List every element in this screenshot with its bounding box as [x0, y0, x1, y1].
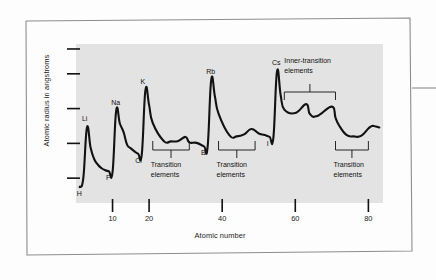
element-label: Cs [272, 59, 281, 66]
annotation-caption: Transitionelements [217, 160, 247, 179]
annotation-caption-line: elements [151, 170, 181, 180]
element-label: Li [82, 115, 87, 122]
element-label: Na [111, 99, 120, 106]
element-label: K [140, 78, 145, 85]
annotation-caption-line: elements [284, 66, 331, 76]
x-axis-tick-label: 40 [210, 214, 234, 223]
annotation-caption-line: Transition [217, 160, 247, 170]
element-label: Br [201, 149, 208, 156]
x-axis-tick-label: 10 [101, 214, 125, 223]
annotation-caption-line: Transition [151, 160, 181, 170]
chart-figure: Atomic radius in angstroms Atomic number… [0, 0, 436, 280]
element-label: I [267, 140, 269, 147]
figure-root: Atomic radius in angstroms Atomic number… [0, 0, 436, 280]
annotation-caption: Transitionelements [333, 160, 363, 179]
annotation-caption-line: Transition [333, 160, 363, 170]
element-label: F [106, 174, 110, 181]
x-axis-tick-label: 60 [283, 214, 307, 223]
annotation-caption: Inner-transitionelements [284, 56, 331, 75]
element-label: Cl [135, 157, 142, 164]
x-axis-tick-label: 80 [356, 214, 380, 223]
annotation-caption-line: elements [217, 170, 247, 180]
y-axis-title: Atomic radius in angstroms [42, 31, 51, 171]
element-label: Rb [206, 68, 215, 75]
element-label: H [77, 190, 82, 197]
annotation-caption: Transitionelements [151, 160, 181, 179]
x-axis-tick-label: 20 [137, 214, 161, 223]
annotation-caption-line: Inner-transition [284, 56, 331, 66]
x-axis-title: Atomic number [150, 231, 290, 240]
annotation-caption-line: elements [333, 170, 363, 180]
